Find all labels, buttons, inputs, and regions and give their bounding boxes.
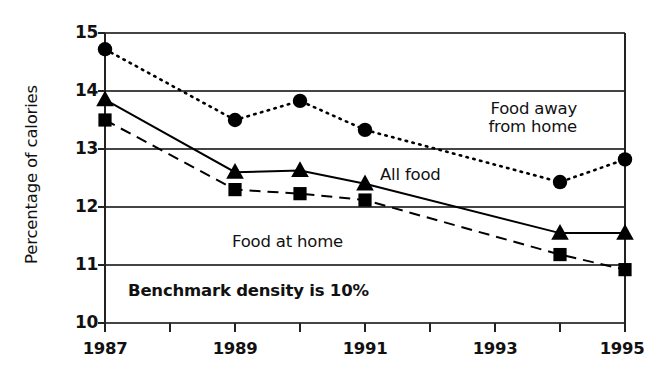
data-point-square-1990: [293, 187, 306, 200]
data-point-triangle-1987: [96, 91, 114, 107]
data-point-circle-1990: [293, 94, 307, 108]
plot-canvas: [0, 0, 665, 389]
series-line-0: [105, 49, 625, 182]
data-point-square-1987: [98, 113, 111, 126]
data-point-circle-1995: [618, 152, 632, 166]
data-point-square-1991: [358, 193, 371, 206]
series-lines: [105, 49, 625, 269]
data-point-square-1989: [228, 183, 241, 196]
data-point-circle-1994: [553, 175, 567, 189]
chart-figure: Percentage of calories 15 14 13 12 11 10…: [0, 0, 665, 389]
data-point-circle-1991: [358, 123, 372, 137]
data-point-triangle-1989: [226, 163, 244, 179]
series-line-1: [105, 100, 625, 233]
data-point-circle-1987: [98, 42, 112, 56]
data-point-triangle-1995: [616, 224, 634, 240]
x-axis-ticks: [105, 323, 625, 332]
data-point-triangle-1990: [291, 161, 309, 177]
y-axis-ticks: [98, 33, 105, 323]
data-point-square-1994: [553, 248, 566, 261]
data-point-circle-1989: [228, 113, 242, 127]
data-point-square-1995: [618, 263, 631, 276]
